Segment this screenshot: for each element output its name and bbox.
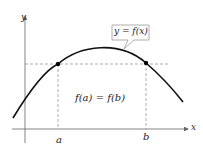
point-a: [56, 62, 60, 66]
tick-label-a: a: [56, 134, 62, 145]
curve-label: y = f(x): [114, 26, 148, 36]
diagram-canvas: [0, 0, 203, 151]
x-axis-label: x: [191, 122, 196, 132]
curve-f: [13, 48, 183, 118]
point-b: [144, 61, 148, 65]
y-axis-label: y: [21, 12, 26, 22]
tick-label-b: b: [143, 131, 149, 142]
rolle-theorem-diagram: y x y = f(x) f(a) = f(b) a b: [0, 0, 203, 151]
equation-label: f(a) = f(b): [75, 92, 125, 103]
